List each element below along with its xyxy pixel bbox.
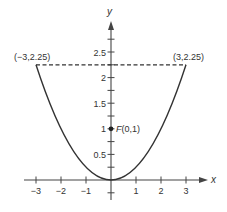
right-endpoint-label: (3,2.25) — [173, 52, 204, 62]
y-tick-label: 1 — [101, 124, 106, 134]
focus-coords: (0,1) — [122, 124, 141, 134]
x-axis-label: x — [210, 174, 217, 185]
left-endpoint-label: (−3,2.25) — [14, 52, 50, 62]
x-tick-label: 3 — [183, 186, 188, 196]
y-axis: y 0.5 1 1.5 2 2.5 — [93, 6, 114, 200]
y-tick-label: 2 — [101, 73, 106, 83]
x-tick-label: 2 — [158, 186, 163, 196]
parabola-chart: x −3 −2 −1 1 2 3 y — [0, 0, 227, 212]
y-tick-label: 1.5 — [93, 99, 106, 109]
x-tick-label: −3 — [31, 186, 41, 196]
y-axis-arrow-icon — [108, 21, 114, 30]
x-tick-label: 1 — [133, 186, 138, 196]
focus-label: F(0,1) — [116, 124, 140, 134]
x-axis-arrow-icon — [199, 177, 208, 183]
focus-point-icon — [109, 126, 114, 131]
y-tick-label: 0.5 — [93, 150, 106, 160]
y-axis-label: y — [106, 6, 113, 17]
y-tick-label: 2.5 — [93, 48, 106, 58]
x-tick-label: −1 — [81, 186, 91, 196]
x-axis: x −3 −2 −1 1 2 3 — [24, 174, 217, 196]
x-tick-label: −2 — [56, 186, 66, 196]
